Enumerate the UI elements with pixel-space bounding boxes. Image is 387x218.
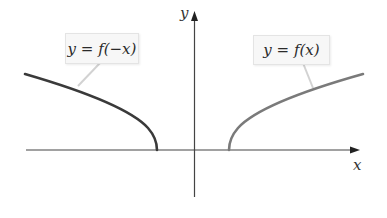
graph-figure: y = f(−x) y = f(x) y x (0, 0, 387, 218)
label-f-x: y = f(x) (253, 35, 330, 65)
curve-f-x (229, 74, 363, 150)
leader-line-right (303, 63, 313, 88)
graph-canvas (0, 0, 387, 218)
y-axis-arrow-icon (191, 11, 198, 21)
label-f-neg-x: y = f(−x) (65, 33, 139, 64)
label-f-neg-x-text: y = f(−x) (68, 40, 137, 58)
label-f-x-text: y = f(x) (263, 41, 319, 59)
curve-f-neg-x (25, 74, 157, 150)
x-axis-label: x (353, 156, 361, 174)
y-axis-label: y (180, 4, 188, 22)
x-axis-arrow-icon (350, 147, 360, 154)
leader-line-left (78, 63, 100, 86)
